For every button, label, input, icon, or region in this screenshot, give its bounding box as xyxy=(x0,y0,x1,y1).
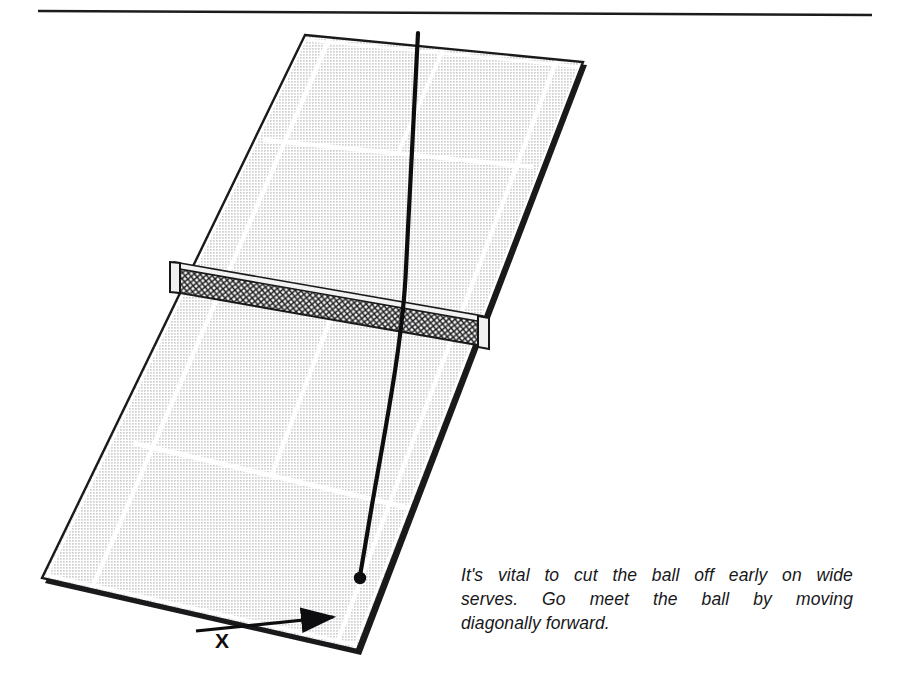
caption-word: wide xyxy=(817,563,853,587)
caption-line-2: serves. Go meet the ball by moving xyxy=(461,587,853,611)
court-surface-group xyxy=(42,35,587,655)
ball-marker xyxy=(354,572,366,584)
caption-word: ball xyxy=(702,587,730,611)
caption-word: the xyxy=(653,587,678,611)
caption-word: by xyxy=(753,587,772,611)
player-position-label: X xyxy=(215,629,229,652)
top-horizontal-rule xyxy=(38,11,872,15)
caption-word: cut xyxy=(574,563,598,587)
caption-word: on xyxy=(782,563,802,587)
caption-word: to xyxy=(544,563,559,587)
net-post-right xyxy=(478,316,489,349)
caption-word: Go xyxy=(542,587,566,611)
caption-word: ball xyxy=(652,563,680,587)
caption-word: the xyxy=(612,563,637,587)
caption-line-3: diagonally forward. xyxy=(461,611,853,635)
caption-word: off xyxy=(694,563,714,587)
caption-word: early xyxy=(729,563,767,587)
caption-word: vital xyxy=(498,563,530,587)
caption-word: moving xyxy=(796,587,853,611)
caption-word: It's xyxy=(461,563,483,587)
caption-word: serves. xyxy=(461,587,518,611)
caption-text: It's vital to cut the ball off early on … xyxy=(461,563,853,635)
caption-line-1: It's vital to cut the ball off early on … xyxy=(461,563,853,587)
net-post-left xyxy=(170,262,180,293)
caption-word: meet xyxy=(590,587,629,611)
court-surface xyxy=(42,35,583,650)
page-canvas: X It's vital to cut the ball off early o… xyxy=(0,0,906,692)
